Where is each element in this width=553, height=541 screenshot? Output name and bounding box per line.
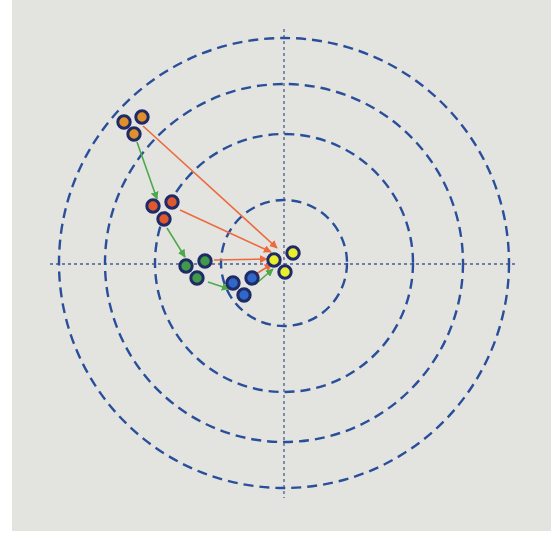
cluster-orange <box>118 111 148 140</box>
data-point <box>136 111 148 123</box>
red-arrow-orange-to-yellow <box>143 126 277 248</box>
data-point <box>191 272 203 284</box>
data-point <box>238 289 250 301</box>
data-point <box>246 272 258 284</box>
data-point <box>268 254 280 266</box>
data-point <box>128 128 140 140</box>
data-point <box>287 247 299 259</box>
data-point <box>279 266 291 278</box>
cluster-green <box>180 255 211 284</box>
data-point <box>118 116 130 128</box>
data-point <box>227 277 239 289</box>
green-arrow-red-to-green <box>167 228 185 257</box>
data-point <box>147 200 159 212</box>
data-point <box>166 196 178 208</box>
data-point <box>180 260 192 272</box>
target-diagram <box>0 0 553 541</box>
green-arrow-orange-to-red <box>137 142 157 199</box>
red-arrow-green-to-yellow <box>214 259 267 260</box>
data-point <box>199 255 211 267</box>
data-point <box>158 213 170 225</box>
cluster-red <box>147 196 178 225</box>
